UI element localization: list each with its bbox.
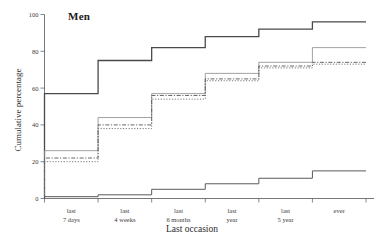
y-ticks-group: 020406080100 xyxy=(29,11,45,202)
x-tick-label: last xyxy=(174,207,183,214)
x-tick-label: ever xyxy=(334,207,346,214)
chart-root: Men Cumulative percentage Last occasion … xyxy=(0,0,384,245)
x-tick-label: 6 months xyxy=(166,216,190,223)
chart-series-2 xyxy=(45,48,367,199)
x-tick-label: last xyxy=(281,207,290,214)
x-tick-label: last xyxy=(120,207,129,214)
y-tick-label: 20 xyxy=(32,158,39,165)
y-tick-label: 80 xyxy=(32,48,39,55)
y-tick-label: 40 xyxy=(32,121,39,128)
y-tick-label: 100 xyxy=(29,11,39,18)
y-tick-label: 0 xyxy=(35,195,38,202)
x-tick-label: 7 days xyxy=(63,216,80,223)
x-tick-label: 4 weeks xyxy=(114,216,136,223)
x-ticks-group: last7 dayslast4 weekslast6 monthslastyea… xyxy=(45,199,367,223)
x-tick-label: last xyxy=(67,207,76,214)
series-group xyxy=(45,22,367,199)
chart-series-5 xyxy=(45,171,367,199)
x-tick-label: 5 year xyxy=(278,216,295,223)
y-tick-label: 60 xyxy=(32,85,39,92)
chart-series-1 xyxy=(45,22,367,199)
chart-series-4 xyxy=(45,64,367,198)
x-tick-label: last xyxy=(228,207,237,214)
chart-svg: 020406080100 last7 dayslast4 weekslast6 … xyxy=(0,0,384,245)
x-tick-label: year xyxy=(226,216,238,223)
